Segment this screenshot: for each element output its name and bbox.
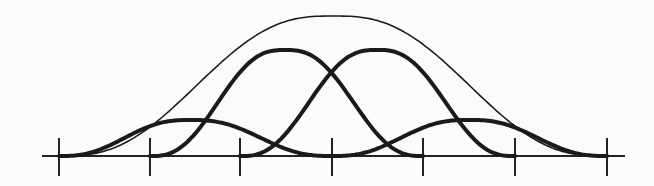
basis-curve-small-right (332, 120, 607, 156)
basis-curves-diagram (0, 0, 654, 186)
basis-curve-large-right (240, 50, 515, 156)
envelope-curve (59, 16, 607, 156)
basis-curve-large-left (150, 50, 423, 156)
